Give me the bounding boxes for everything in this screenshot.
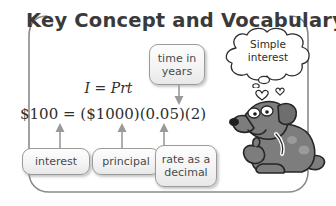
callout-rate-text: rate as a decimal [162, 153, 211, 179]
callout-rate-line2: decimal [164, 166, 207, 179]
callout-interest: interest [22, 148, 90, 175]
callout-time-line1: time in [158, 52, 196, 65]
heart-icon-small [276, 88, 284, 95]
callout-interest-text: interest [35, 155, 77, 168]
callout-rate-as-a-decimal: rate as a decimal [155, 145, 217, 187]
thought-bubble-line2: interest [248, 51, 288, 63]
callout-principal-text: principal [102, 155, 149, 168]
dog-illustration [226, 84, 330, 184]
callout-time-line2: years [162, 65, 192, 78]
callout-time-in-years-text: time in years [158, 52, 196, 78]
arrow-up-interest [51, 122, 69, 148]
heart-icon [256, 90, 268, 100]
cartoon-dog-icon [226, 84, 330, 184]
arrow-up-principal [113, 122, 131, 148]
callout-principal: principal [92, 148, 160, 175]
thought-bubble-line1: Simple [250, 38, 286, 50]
callout-time-in-years: time in years [149, 44, 205, 85]
substituted-equation: $100 = ($1000)(0.05)(2) [20, 105, 200, 123]
key-concept-panel: Key Concept and Vocabulary I = Prt $100 … [0, 0, 336, 206]
thought-bubble: Simple interest [216, 26, 320, 88]
thought-bubble-text: Simple interest [232, 38, 304, 64]
callout-rate-line1: rate as a [162, 153, 211, 166]
